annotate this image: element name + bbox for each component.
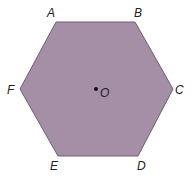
hexagon-diagram: O A B C D E F — [0, 0, 193, 178]
center-label: O — [100, 86, 109, 100]
vertex-label-d: D — [137, 159, 146, 173]
vertex-label-a: A — [46, 6, 55, 20]
vertex-label-f: F — [7, 83, 15, 97]
vertex-label-b: B — [134, 6, 142, 20]
center-point — [94, 87, 98, 91]
vertex-label-e: E — [50, 159, 59, 173]
vertex-label-c: C — [175, 83, 184, 97]
